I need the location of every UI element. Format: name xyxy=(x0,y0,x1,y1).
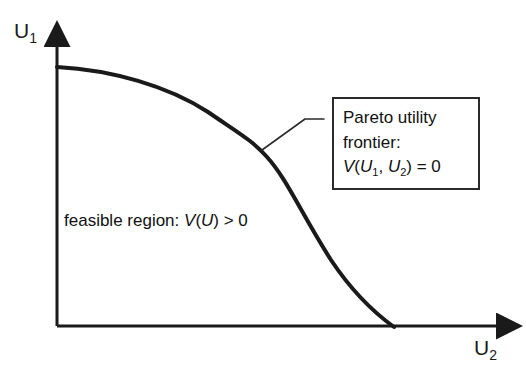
callout-formula-v: V xyxy=(343,157,354,176)
feasible-region-annotation: feasible region: V(U) > 0 xyxy=(64,212,248,231)
callout-leader-line xyxy=(262,119,324,150)
x-axis-label-subscript: 2 xyxy=(489,347,497,363)
y-axis-label-subscript: 1 xyxy=(29,30,37,46)
feasible-region-v: V xyxy=(184,211,195,230)
callout-line-1: Pareto utility xyxy=(343,106,474,131)
feasible-region-relation: > 0 xyxy=(219,211,248,230)
callout-line-2: frontier: xyxy=(343,131,474,156)
callout-formula-u2: U xyxy=(388,157,400,176)
callout-text: Pareto utility frontier: V(U1, U2) = 0 xyxy=(343,106,474,182)
callout-formula-eq: = 0 xyxy=(412,157,441,176)
x-axis-label-text: U xyxy=(474,336,489,359)
y-axis-label: U1 xyxy=(14,20,37,45)
feasible-region-u: U xyxy=(201,211,213,230)
y-axis-label-text: U xyxy=(14,19,29,42)
callout-formula-u1: U xyxy=(360,157,372,176)
feasible-region-prefix: feasible region: xyxy=(64,211,184,230)
pareto-frontier-callout-box: Pareto utility frontier: V(U1, U2) = 0 xyxy=(332,97,480,190)
x-axis-label: U2 xyxy=(474,337,497,362)
callout-formula-comma: , xyxy=(378,157,387,176)
callout-formula: V(U1, U2) = 0 xyxy=(343,155,474,181)
pareto-utility-frontier-figure: U1 U2 feasible region: V(U) > 0 Pareto u… xyxy=(0,0,526,372)
